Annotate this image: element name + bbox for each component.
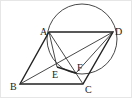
geometry-diagram: A D B C E F [0, 0, 135, 100]
label-b: B [10, 81, 17, 92]
label-f: F [77, 62, 83, 73]
label-d: D [115, 26, 122, 37]
label-c: C [85, 84, 92, 95]
label-e: E [52, 69, 58, 80]
label-a: A [40, 26, 48, 37]
